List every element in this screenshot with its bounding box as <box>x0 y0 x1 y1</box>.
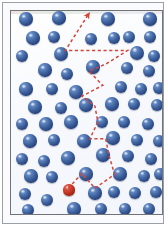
medium-particle <box>22 204 35 215</box>
medium-particle <box>67 202 80 215</box>
medium-particle <box>86 60 99 73</box>
medium-particle <box>113 167 126 180</box>
medium-particle <box>77 134 90 147</box>
medium-particle <box>38 63 51 76</box>
scan-artifact-tint <box>11 11 162 14</box>
tracer-particle <box>63 184 74 195</box>
medium-particle <box>61 151 74 164</box>
medium-particle <box>154 168 163 180</box>
medium-particle <box>130 46 144 60</box>
medium-particle <box>39 117 52 130</box>
medium-particle <box>150 186 162 198</box>
particle-vessel <box>10 10 163 215</box>
medium-particle <box>153 135 163 147</box>
medium-particle <box>28 100 41 113</box>
figure-outer-frame <box>2 2 164 224</box>
medium-particle <box>88 186 101 199</box>
medium-particle <box>79 167 92 180</box>
medium-particle <box>26 31 39 44</box>
medium-particle <box>23 134 36 147</box>
medium-particle <box>143 12 156 25</box>
medium-particle <box>105 97 118 110</box>
brownian-motion-figure <box>0 0 168 228</box>
medium-particle <box>96 148 109 161</box>
medium-particle <box>69 85 82 98</box>
medium-particle <box>79 98 92 111</box>
medium-particle <box>106 131 119 144</box>
medium-particle <box>101 12 114 25</box>
medium-particle <box>54 47 68 61</box>
medium-particle <box>19 12 32 25</box>
medium-particle <box>19 82 32 95</box>
medium-particle <box>24 169 37 182</box>
medium-particle <box>153 82 163 94</box>
medium-particle <box>64 115 77 128</box>
medium-particle <box>52 11 65 24</box>
